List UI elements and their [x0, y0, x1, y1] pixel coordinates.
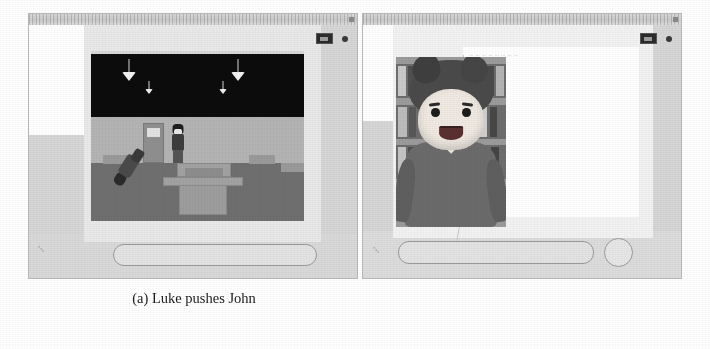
window-dot-icon-b[interactable] — [673, 17, 678, 22]
avatar-face — [418, 89, 484, 150]
lamp-shade — [122, 72, 136, 81]
figure-two-panel: // lamp internals are decorative; genera… — [0, 0, 710, 349]
teacher-desk-front — [185, 168, 222, 176]
titlebar-texture-a — [29, 14, 357, 25]
app-body-a: // lamp internals are decorative; genera… — [29, 25, 357, 278]
scene-ceiling — [91, 51, 304, 117]
camera-thumbnail-icon-a[interactable] — [316, 33, 333, 44]
lamp-shade — [219, 89, 227, 94]
door-window — [147, 128, 159, 137]
lamp-cord — [238, 59, 239, 73]
john-body — [172, 134, 184, 151]
scene-viewport-a[interactable]: // lamp internals are decorative; genera… — [91, 51, 304, 221]
book — [490, 107, 498, 137]
record-dot-icon-b[interactable] — [666, 36, 672, 42]
record-dot-icon-a[interactable] — [342, 36, 348, 42]
page-band-right-b — [653, 25, 681, 238]
message-input-b[interactable] — [398, 241, 594, 264]
avatar-torso — [405, 142, 497, 227]
controls-b — [640, 33, 672, 44]
send-button[interactable] — [604, 238, 633, 267]
window-dot-icon-a[interactable] — [349, 17, 354, 22]
avatar-eyebrow-left — [429, 102, 441, 107]
avatar-eye-left — [431, 108, 440, 117]
book — [398, 107, 407, 137]
keyboard-icon-b[interactable]: ␛ — [373, 247, 379, 255]
lamp-shade — [145, 89, 153, 94]
camera-thumbnail-icon-b[interactable] — [640, 33, 657, 44]
john-legs — [173, 150, 183, 163]
avatar-photo[interactable] — [396, 57, 506, 227]
app-body-b: … … … … … … … … … … … … … — [363, 25, 681, 278]
page-band-right-a — [321, 25, 357, 242]
message-input-a[interactable] — [113, 244, 317, 266]
desk-right-back — [249, 155, 275, 164]
titlebar-texture-b — [363, 14, 681, 25]
lamp-cord — [129, 59, 130, 73]
controls-a — [316, 33, 348, 44]
scene-ceiling-lip — [91, 51, 304, 54]
teacher-desk — [177, 163, 231, 177]
lamp-shade — [231, 72, 245, 81]
keyboard-icon-a[interactable]: ␛ — [38, 246, 44, 254]
character-john-standing[interactable] — [171, 124, 185, 164]
avatar-arm-left — [396, 158, 418, 223]
app-window-b: … … … … … … … … … … … … … — [362, 13, 682, 279]
avatar-eyebrow-right — [461, 102, 473, 107]
book — [409, 107, 416, 137]
app-window-a: // lamp internals are decorative; genera… — [28, 13, 358, 279]
book — [398, 66, 406, 96]
caption-a: (a) Luke pushes John — [28, 290, 360, 307]
avatar-eye-right — [462, 108, 471, 117]
book — [496, 66, 504, 96]
subfigure-a: // lamp internals are decorative; genera… — [0, 0, 355, 279]
subfigure-b: … … … … … … … … … … … … … — [355, 0, 695, 279]
front-desk-body — [179, 185, 227, 215]
avatar-mouth — [439, 126, 463, 140]
desk-far-right — [281, 163, 304, 172]
